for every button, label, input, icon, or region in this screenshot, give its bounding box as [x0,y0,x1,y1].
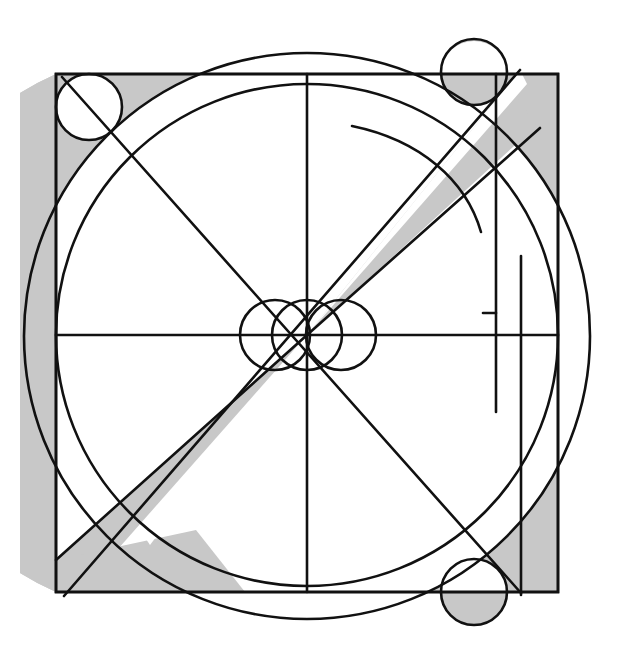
geometric-construction-figure: Geometric construction diagram Black lin… [0,0,618,662]
construction-svg: Geometric construction diagram Black lin… [0,0,618,662]
shaded-regions [0,39,590,625]
